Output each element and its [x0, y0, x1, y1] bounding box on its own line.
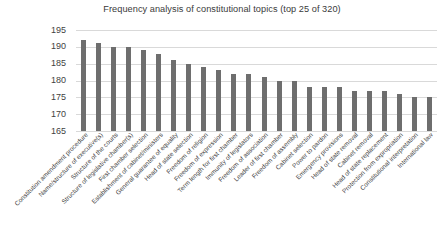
plot-area [76, 30, 437, 131]
bar [322, 87, 327, 131]
bar [141, 50, 146, 131]
y-tick-label: 170 [0, 110, 66, 119]
y-tick-label: 175 [0, 93, 66, 102]
bar [171, 60, 176, 131]
y-axis-labels: 165170175180185190195 [0, 30, 70, 131]
bar [292, 81, 297, 132]
bar [231, 74, 236, 131]
y-tick-label: 180 [0, 76, 66, 85]
bar [367, 91, 372, 131]
bar [277, 81, 282, 132]
bar-series [76, 30, 437, 131]
bar [246, 74, 251, 131]
bar [156, 54, 161, 131]
bar [427, 97, 432, 131]
bar [126, 47, 131, 131]
chart-figure: Frequency analysis of constitutional top… [0, 0, 444, 241]
bar [352, 91, 357, 131]
bar [186, 64, 191, 131]
bar [96, 43, 101, 131]
y-tick-label: 185 [0, 59, 66, 68]
x-axis-labels: Constitution amendment procedureName/str… [76, 131, 444, 241]
bar [307, 87, 312, 131]
bar [201, 67, 206, 131]
y-tick-label: 190 [0, 42, 66, 51]
bar [382, 91, 387, 131]
y-tick-label: 165 [0, 127, 66, 136]
bar [216, 70, 221, 131]
bar [397, 94, 402, 131]
bar [111, 47, 116, 131]
bar [262, 77, 267, 131]
bar [81, 40, 86, 131]
chart-title: Frequency analysis of constitutional top… [0, 4, 444, 14]
bar [412, 97, 417, 131]
y-tick-label: 195 [0, 26, 66, 35]
bar [337, 87, 342, 131]
